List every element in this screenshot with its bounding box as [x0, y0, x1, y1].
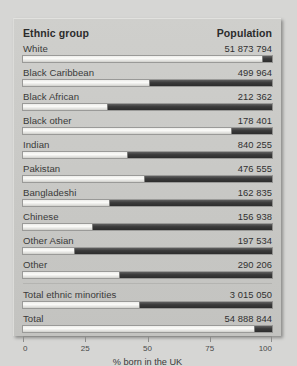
bar-row: Total ethnic minorities3 015 050 — [22, 288, 273, 309]
header-population: Population — [217, 27, 272, 39]
bar-row-labels: Pakistan476 555 — [22, 163, 273, 175]
population-value: 156 938 — [238, 211, 272, 222]
bar-track — [22, 103, 273, 111]
bar-row: White51 873 794 — [22, 42, 273, 63]
bar-fill — [23, 128, 232, 134]
bar-track — [22, 127, 273, 135]
ethnic-group-label: Pakistan — [23, 163, 60, 174]
x-axis-tick-labels: 0255075100 — [23, 344, 272, 356]
population-value: 840 255 — [238, 139, 272, 150]
axis-tick-label: 100 — [259, 344, 272, 353]
ethnic-group-label: Other Asian — [23, 235, 74, 246]
bar-fill — [23, 302, 140, 308]
header-ethnic-group: Ethnic group — [23, 27, 89, 39]
ethnic-group-label: Black African — [23, 91, 79, 102]
bar-row: Black African212 362 — [22, 90, 273, 111]
ethnic-group-label: Total — [23, 313, 44, 324]
section-divider — [23, 283, 272, 284]
population-value: 54 888 844 — [225, 313, 272, 324]
bar-row-labels: Chinese156 938 — [22, 211, 273, 223]
population-value: 178 401 — [238, 115, 272, 126]
population-value: 499 964 — [238, 67, 272, 78]
chart-panel-inner: Ethnic group Population White51 873 794B… — [14, 19, 281, 336]
population-value: 212 362 — [238, 91, 272, 102]
axis-tick-label: 50 — [143, 344, 152, 353]
bar-fill — [23, 200, 110, 206]
bar-track — [22, 325, 273, 333]
chart-page: Ethnic group Population White51 873 794B… — [0, 0, 297, 366]
axis-tick — [210, 337, 211, 342]
bar-fill — [23, 56, 263, 62]
ethnic-group-label: Black other — [23, 115, 72, 126]
axis-tick — [271, 337, 272, 342]
bar-row: Chinese156 938 — [22, 210, 273, 231]
bar-row-labels: Black Caribbean499 964 — [22, 67, 273, 79]
bar-row-labels: Black African212 362 — [22, 91, 273, 103]
bar-fill — [23, 152, 128, 158]
ethnic-group-label: Indian — [23, 139, 49, 150]
bar-row: Indian840 255 — [22, 138, 273, 159]
population-value: 290 206 — [238, 259, 272, 270]
bar-track — [22, 55, 273, 63]
bar-row: Total54 888 844 — [22, 312, 273, 333]
axis-tick-label: 75 — [205, 344, 214, 353]
bar-row-labels: Indian840 255 — [22, 139, 273, 151]
bar-row-labels: Other Asian197 534 — [22, 235, 273, 247]
population-value: 197 534 — [238, 235, 272, 246]
ethnic-group-label: Total ethnic minorities — [23, 289, 116, 300]
bar-rows: White51 873 794Black Caribbean499 964Bla… — [22, 42, 273, 333]
bar-row: Pakistan476 555 — [22, 162, 273, 183]
table-header: Ethnic group Population — [22, 25, 273, 42]
ethnic-group-label: White — [23, 43, 48, 54]
population-value: 476 555 — [238, 163, 272, 174]
bar-row-labels: Total ethnic minorities3 015 050 — [22, 289, 273, 301]
bar-fill — [23, 104, 108, 110]
bar-track — [22, 223, 273, 231]
axis-tick-label: 25 — [81, 344, 90, 353]
axis-tick-label: 0 — [23, 344, 27, 353]
x-axis-title: % born in the UK — [22, 357, 273, 366]
bar-row-labels: Total54 888 844 — [22, 313, 273, 325]
ethnic-group-label: Black Caribbean — [23, 67, 94, 78]
bar-track — [22, 199, 273, 207]
bar-fill — [23, 224, 93, 230]
population-value: 162 835 — [238, 187, 272, 198]
bar-row: Bangladeshi162 835 — [22, 186, 273, 207]
ethnic-group-label: Bangladeshi — [23, 187, 76, 198]
bar-fill — [23, 176, 145, 182]
axis-tick — [85, 337, 86, 342]
bar-row-labels: White51 873 794 — [22, 43, 273, 55]
bar-fill — [23, 248, 75, 254]
chart-panel: Ethnic group Population White51 873 794B… — [13, 18, 281, 336]
bar-row-labels: Other290 206 — [22, 259, 273, 271]
bar-fill — [23, 326, 255, 332]
x-axis — [23, 336, 272, 344]
bar-track — [22, 247, 273, 255]
bar-row: Other Asian197 534 — [22, 234, 273, 255]
bar-row-labels: Bangladeshi162 835 — [22, 187, 273, 199]
axis-tick — [23, 337, 24, 342]
bar-track — [22, 271, 273, 279]
ethnic-group-label: Other — [23, 259, 47, 270]
bar-track — [22, 301, 273, 309]
bar-row: Other290 206 — [22, 258, 273, 279]
bar-fill — [23, 272, 120, 278]
bar-row: Black other178 401 — [22, 114, 273, 135]
population-value: 51 873 794 — [225, 43, 272, 54]
bar-track — [22, 79, 273, 87]
bar-fill — [23, 80, 150, 86]
bar-track — [22, 151, 273, 159]
ethnic-group-label: Chinese — [23, 211, 59, 222]
bar-row: Black Caribbean499 964 — [22, 66, 273, 87]
population-value: 3 015 050 — [230, 289, 272, 300]
bar-track — [22, 175, 273, 183]
bar-row-labels: Black other178 401 — [22, 115, 273, 127]
axis-tick — [148, 337, 149, 342]
